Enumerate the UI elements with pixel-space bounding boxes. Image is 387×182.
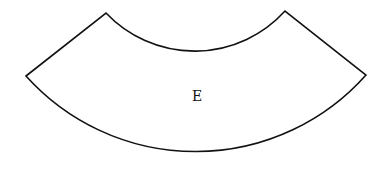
annular-sector-shape: [26, 11, 366, 152]
region-label: E: [192, 88, 202, 104]
annular-sector-diagram: E: [0, 0, 387, 182]
